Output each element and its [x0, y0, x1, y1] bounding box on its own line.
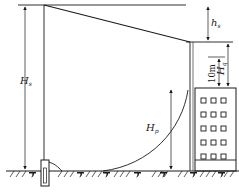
building-windows — [201, 98, 226, 159]
hydraulic-head-diagram: hs Hq 10m Hp Hs — [0, 0, 239, 196]
building — [195, 88, 236, 171]
hydrant-outflow-curve — [48, 162, 62, 171]
H-s-label: Hs — [19, 75, 32, 87]
H-p-label: Hp — [145, 122, 159, 135]
hydraulic-gradient-line — [44, 5, 190, 42]
fire-hydrant — [41, 160, 49, 186]
ten-m-label: 10m — [207, 64, 217, 83]
h-s-label: hs — [211, 17, 221, 29]
diagram-canvas: hs Hq 10m Hp Hs — [0, 0, 239, 196]
